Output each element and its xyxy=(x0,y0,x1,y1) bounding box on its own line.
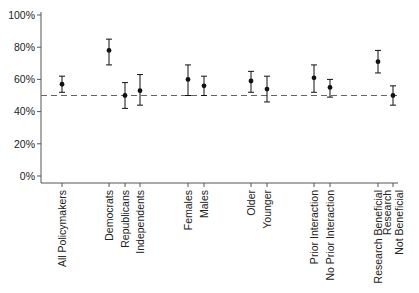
data-point xyxy=(264,76,270,102)
x-category-label: Not Beneficial xyxy=(393,190,405,255)
point-marker xyxy=(123,93,128,98)
data-point xyxy=(390,86,396,105)
data-point xyxy=(327,79,333,97)
x-category-label: Democrats xyxy=(103,190,115,241)
point-marker xyxy=(265,87,270,92)
data-points xyxy=(59,39,396,108)
point-marker xyxy=(312,75,317,80)
data-point xyxy=(185,65,191,96)
data-point xyxy=(106,39,112,65)
x-category-label: Older xyxy=(245,190,257,216)
point-marker xyxy=(60,82,65,87)
x-category-label: Younger xyxy=(261,189,273,228)
x-category-label: Males xyxy=(198,190,210,218)
x-category-label: Females xyxy=(182,190,194,230)
point-marker xyxy=(328,85,333,90)
chart-canvas: 0%20%40%60%80%100% All PolicymakersDemoc… xyxy=(0,0,419,293)
y-tick-label: 40% xyxy=(14,105,35,117)
y-tick-label: 20% xyxy=(14,138,35,150)
point-marker xyxy=(376,59,381,64)
data-point xyxy=(311,65,317,92)
data-point xyxy=(122,83,128,109)
x-category-label: All Policymakers xyxy=(56,190,68,267)
x-category-label: Research xyxy=(381,190,393,235)
x-axis xyxy=(41,183,398,187)
y-tick-label: 100% xyxy=(8,9,35,21)
point-marker xyxy=(249,79,254,84)
point-marker xyxy=(138,88,143,93)
x-category-label: Republicans xyxy=(119,190,131,248)
point-marker xyxy=(107,48,112,53)
point-marker xyxy=(186,77,191,82)
x-category-label: Independents xyxy=(134,190,146,254)
x-category-label: Prior Interaction xyxy=(308,190,320,264)
y-tick-label: 80% xyxy=(14,41,35,53)
point-marker xyxy=(391,93,396,98)
x-category-label: No Prior Interaction xyxy=(324,190,336,281)
y-tick-label: 60% xyxy=(14,73,35,85)
data-point xyxy=(375,50,381,73)
data-point xyxy=(137,75,143,106)
y-tick-label: 0% xyxy=(20,170,35,182)
data-point xyxy=(248,71,254,92)
data-point xyxy=(201,76,207,95)
data-point xyxy=(59,76,65,92)
category-labels: All PolicymakersDemocratsRepublicansInde… xyxy=(56,189,405,283)
point-marker xyxy=(202,83,207,88)
y-axis: 0%20%40%60%80%100% xyxy=(8,9,41,183)
